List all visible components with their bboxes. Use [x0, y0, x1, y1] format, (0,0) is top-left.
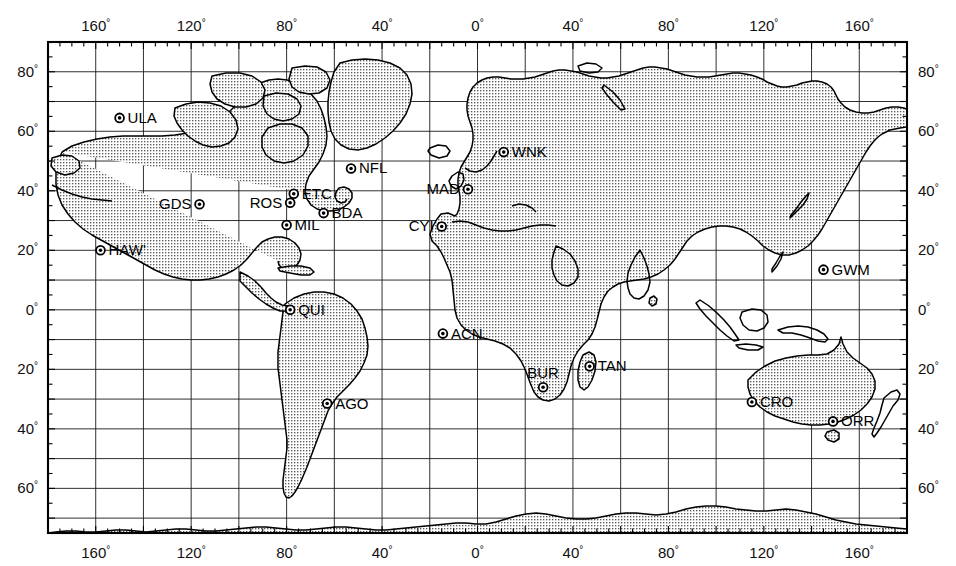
- station-dot-icon: [502, 150, 506, 154]
- world-map-figure: 160°120°80°40°0°40°80°120°160°160°120°80…: [0, 0, 956, 566]
- axis-label-top: 160°: [845, 17, 874, 35]
- axis-label-top: 120°: [177, 17, 206, 35]
- station-label: GDS: [159, 195, 192, 212]
- axis-label-top: 160°: [81, 17, 110, 35]
- station-dot-icon: [198, 202, 202, 206]
- station-dot-icon: [831, 420, 835, 424]
- station-dot-icon: [541, 385, 545, 389]
- station-dot-icon: [292, 192, 296, 196]
- station-label: MAD: [427, 180, 461, 197]
- station-label: GWM: [831, 261, 869, 278]
- station-dot-icon: [288, 308, 292, 312]
- station-label: AGO: [335, 395, 368, 412]
- station-dot-icon: [99, 249, 103, 253]
- axis-label-bottom: 160°: [845, 544, 874, 562]
- landmass-arctic-island-c: [289, 66, 330, 94]
- landmass-alaska-island: [51, 155, 80, 175]
- station-label: ORR: [841, 412, 875, 429]
- station-dot-icon: [349, 167, 353, 171]
- station-label: HAW': [108, 241, 145, 258]
- station-label: CRO: [760, 393, 793, 410]
- station-dot-icon: [588, 365, 592, 369]
- station-label: TAN: [598, 357, 627, 374]
- station-dot-icon: [325, 402, 329, 406]
- station-label: ETC: [302, 185, 332, 202]
- world-map-canvas: 160°120°80°40°0°40°80°120°160°160°120°80…: [0, 0, 956, 566]
- station-label: CYI: [409, 217, 434, 234]
- axis-label-bottom: 120°: [177, 544, 206, 562]
- station-label: ULA: [128, 109, 157, 126]
- station-label: ROS: [250, 194, 283, 211]
- axis-label-bottom: 120°: [749, 544, 778, 562]
- station-dot-icon: [118, 116, 122, 120]
- landmass-baffin: [262, 124, 308, 163]
- station-dot-icon: [440, 225, 444, 229]
- station-dot-icon: [441, 332, 445, 336]
- station-label: ACN: [451, 325, 483, 342]
- station-dot-icon: [466, 188, 470, 192]
- landmass-sri-lanka: [649, 296, 657, 306]
- station-label: BUR: [527, 364, 559, 381]
- station-dot-icon: [750, 400, 754, 404]
- station-dot-icon: [822, 268, 826, 272]
- station-dot-icon: [322, 211, 326, 215]
- axis-label-top: 120°: [749, 17, 778, 35]
- station-dot-icon: [288, 201, 292, 205]
- station-label: MIL: [295, 216, 320, 233]
- station-dot-icon: [285, 223, 289, 227]
- axis-label-bottom: 160°: [81, 544, 110, 562]
- station-label: BDA: [332, 204, 363, 221]
- station-label: QUI: [298, 301, 325, 318]
- station-label: WNK: [512, 143, 547, 160]
- station-label: NFL: [359, 159, 387, 176]
